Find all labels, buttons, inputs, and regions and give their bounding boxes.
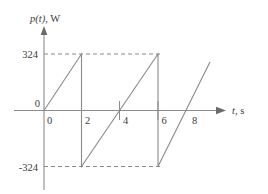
- y-tick-label-positive-peak: 324: [22, 49, 39, 60]
- y-tick-label-negative-peak: -324: [19, 162, 39, 173]
- x-tick-label-8: 8: [192, 115, 197, 126]
- x-axis-title: t, s: [232, 105, 244, 116]
- y-axis-title-symbol: p(t): [29, 13, 46, 25]
- y-axis-title: p(t), W: [29, 13, 60, 25]
- x-tick-label-2: 2: [85, 115, 90, 126]
- waveform-plot: 324 0 -324 0 2 4 6 8 p(t), W t, s: [0, 0, 268, 194]
- x-axis-title-unit: , s: [235, 105, 244, 116]
- y-axis-title-unit: , W: [45, 13, 60, 24]
- power-waveform-figure: 324 0 -324 0 2 4 6 8 p(t), W t, s: [0, 0, 268, 194]
- x-axis-arrow-icon: [216, 107, 226, 115]
- x-tick-label-4: 4: [123, 115, 129, 126]
- y-axis-arrow-icon: [41, 26, 48, 35]
- y-tick-label-origin: 0: [35, 98, 40, 109]
- x-tick-label-6: 6: [162, 115, 167, 126]
- x-tick-label-0: 0: [47, 115, 52, 126]
